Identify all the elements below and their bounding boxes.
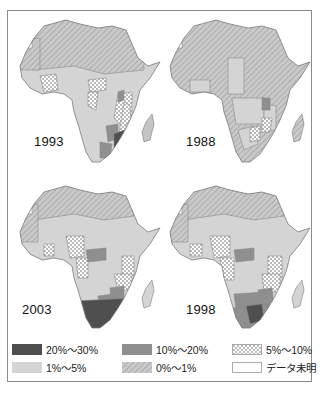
swatch-unknown	[232, 362, 262, 373]
map-panel-1988: 1988	[164, 14, 314, 174]
map-panel-1993: 1993	[14, 14, 164, 174]
year-label-1988: 1988	[186, 134, 216, 149]
legend-item-20-30: 20%〜30%	[12, 343, 98, 356]
year-label-1993: 1993	[34, 134, 64, 149]
year-label-1998: 1998	[186, 302, 216, 317]
swatch-1-5	[12, 362, 42, 373]
africa-map-1988	[164, 14, 314, 174]
swatch-20-30	[12, 344, 42, 355]
map-panel-2003: 2003	[14, 180, 164, 340]
legend-item-unknown: データ未明	[232, 361, 316, 374]
swatch-10-20	[122, 344, 152, 355]
africa-map-1993	[14, 14, 164, 174]
map-panel-1998: 1998	[164, 180, 314, 340]
legend-item-1-5: 1%〜5%	[12, 361, 86, 374]
legend-item-0-1: 0%〜1%	[122, 361, 196, 374]
swatch-0-1	[122, 362, 152, 373]
legend-item-10-20: 10%〜20%	[122, 343, 208, 356]
year-label-2003: 2003	[22, 302, 52, 317]
legend: 20%〜30% 10%〜20% 5%〜10% 1%〜5% 0%〜1% データ未明	[12, 343, 308, 377]
legend-item-5-10: 5%〜10%	[232, 343, 312, 356]
swatch-5-10	[232, 344, 262, 355]
